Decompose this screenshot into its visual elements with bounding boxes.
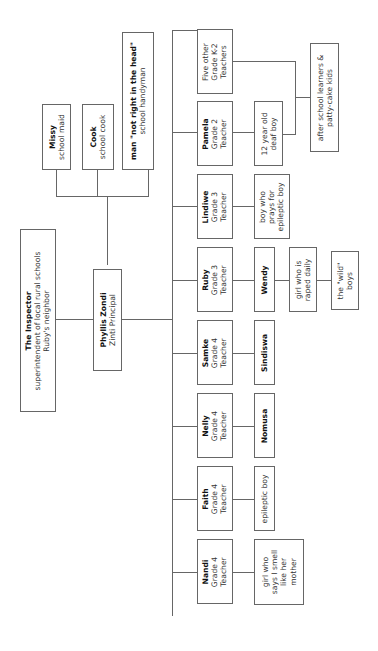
node-line: school cook — [98, 115, 107, 160]
node-line: the "wild" — [336, 262, 345, 299]
connector-principal-trunk — [121, 319, 173, 320]
connector-teacher-trunk — [172, 30, 173, 616]
node-missy[interactable]: Missyschool maid — [42, 104, 71, 170]
node-line: school handyman — [138, 42, 147, 160]
connector-cook — [97, 170, 98, 197]
node-line: epileptic boy — [260, 474, 269, 523]
node-line: Teacher — [220, 410, 229, 440]
connector-afterschool — [295, 97, 310, 98]
node-nelly[interactable]: NellyGrade 4Teacher — [197, 393, 233, 458]
node-inspector[interactable]: The Inspectorsuperintendent of local rur… — [20, 229, 56, 412]
node-line: Teacher — [220, 337, 229, 367]
connector-k2-right — [232, 61, 296, 62]
node-line: prays for — [267, 182, 276, 231]
node-line: after school learners & — [315, 54, 324, 140]
node-prayboy[interactable]: boy whoprays forepileptic boy — [254, 174, 290, 239]
node-line: Teachers — [220, 43, 229, 81]
node-title: Cook — [89, 115, 98, 160]
node-nandi[interactable]: NandiGrade 4Teacher — [197, 539, 233, 604]
node-line: Ruby's neighbor — [43, 251, 52, 390]
connector-principal-staff-vertical — [107, 196, 108, 265]
node-afterschool[interactable]: after school learners &patty-cake kids — [310, 43, 339, 152]
node-line: boys — [345, 262, 354, 299]
node-title: The Inspector — [24, 251, 33, 390]
connector-faith-epilepticboy — [232, 499, 255, 500]
node-line: Zinti Principal — [108, 292, 117, 347]
node-line: girl who is — [294, 258, 303, 301]
node-line: says I smell — [270, 550, 279, 594]
node-epilepticboy[interactable]: epileptic boy — [254, 466, 275, 531]
node-handyman[interactable]: man "not right in the head"school handym… — [122, 32, 154, 170]
node-title: Faith — [201, 483, 210, 513]
node-pamela[interactable]: PamelaGrade 2Teacher — [197, 101, 233, 166]
node-title: Nandi — [201, 556, 210, 586]
node-line: superintendent of local rural schools — [33, 251, 42, 390]
node-line: Grade K-2 — [210, 43, 219, 81]
connector-lindiwe-prayboy — [232, 206, 255, 207]
node-title: man "not right in the head" — [129, 42, 138, 160]
node-line: Teacher — [220, 556, 229, 586]
connector-nandi — [172, 572, 198, 573]
node-line: Teacher — [220, 118, 229, 149]
node-line: raped daily — [303, 258, 312, 301]
node-title: Ruby — [201, 264, 210, 294]
org-chart: The Inspectorsuperintendent of local rur… — [0, 0, 378, 651]
node-line: Grade 3 — [210, 190, 219, 223]
node-line: patty-cake kids — [325, 54, 334, 140]
node-title: Sindiswa — [260, 333, 269, 371]
node-title: Nelly — [201, 410, 210, 440]
node-faith[interactable]: FaithGrade 4Teacher — [197, 466, 233, 531]
node-k2[interactable]: Five otherGrade K-2Teachers — [197, 29, 233, 94]
node-line: girl who — [261, 550, 270, 594]
node-line: deaf boy — [269, 112, 278, 155]
node-line: 12 year old — [259, 112, 268, 155]
node-line: boy who — [258, 182, 267, 231]
node-title: Missy — [47, 114, 56, 160]
connector-lindiwe — [172, 206, 198, 207]
node-line: Five other — [201, 43, 210, 81]
node-line: epileptic boy — [277, 182, 286, 231]
node-title: Pamela — [201, 118, 210, 149]
node-deafboy[interactable]: 12 year olddeaf boy — [254, 101, 283, 166]
node-title: Nomusa — [260, 408, 269, 443]
connector-nandi-girlsmell — [232, 572, 255, 573]
node-line: Teacher — [220, 483, 229, 513]
connector-missy — [56, 170, 57, 197]
node-sindiswa[interactable]: Sindiswa — [254, 320, 275, 385]
node-line: Grade 4 — [210, 410, 219, 440]
connector-nelly — [172, 426, 198, 427]
node-girlraped[interactable]: girl who israped daily — [289, 247, 317, 312]
node-wendy[interactable]: Wendy — [254, 247, 275, 312]
node-nomusa[interactable]: Nomusa — [254, 393, 275, 458]
node-girlsmell[interactable]: girl whosays I smelllike hermother — [254, 539, 304, 605]
node-line: mother — [288, 550, 297, 594]
node-wildboys[interactable]: the "wild"boys — [331, 251, 359, 310]
connector-deafboy-right — [282, 134, 296, 135]
node-title: Samke — [201, 337, 210, 367]
connector-nelly-nomusa — [232, 426, 255, 427]
node-line: Grade 2 — [210, 118, 219, 149]
node-cook[interactable]: Cookschool cook — [82, 104, 114, 170]
connector-pamela — [172, 132, 198, 133]
node-samke[interactable]: SamkeGrade 4Teacher — [197, 320, 233, 385]
connector-ruby — [172, 280, 198, 281]
connector-staff-bus — [56, 196, 149, 197]
node-lindiwe[interactable]: LindiweGrade 3Teacher — [197, 174, 233, 239]
connector-k2 — [172, 30, 198, 31]
node-principal[interactable]: Phyllis ZondiZinti Principal — [93, 269, 122, 371]
node-line: Grade 3 — [210, 264, 219, 294]
node-line: like her — [279, 550, 288, 594]
connector-inspector-principal — [55, 319, 94, 320]
connector-ruby-wendy — [232, 280, 255, 281]
node-ruby[interactable]: RubyGrade 3Teacher — [197, 247, 233, 312]
connector-pamela-deafboy — [232, 132, 255, 133]
connector-afterschool-vertical — [295, 61, 296, 135]
connector-wendy-girl — [274, 280, 289, 281]
connector-handyman — [148, 170, 149, 197]
node-title: Wendy — [260, 265, 269, 294]
node-line: Teacher — [220, 190, 229, 223]
connector-girl-wildboys — [316, 280, 332, 281]
connector-samke — [172, 353, 198, 354]
node-line: school maid — [57, 114, 66, 160]
node-title: Lindiwe — [201, 190, 210, 223]
